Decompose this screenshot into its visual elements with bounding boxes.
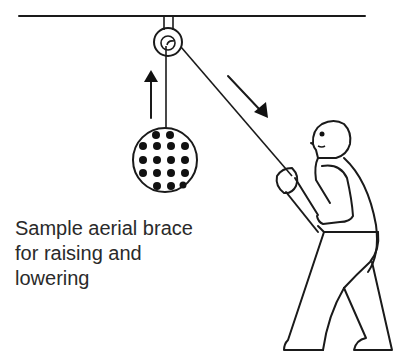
worker-figure: [277, 121, 392, 350]
aerial-brace-sphere: [133, 128, 197, 192]
pulley-block: [154, 16, 182, 56]
worker-hand: [277, 168, 298, 193]
up-arrow-icon: [144, 70, 158, 118]
diagram-caption: Sample aerial brace for raising and lowe…: [15, 216, 215, 291]
worker-head: [313, 121, 350, 158]
caption-line-1: Sample aerial brace: [15, 216, 215, 241]
worker-eye: [320, 132, 325, 137]
down-arrow-icon: [228, 76, 268, 118]
pulley-diagram: [0, 0, 409, 358]
caption-line-3: lowering: [15, 266, 215, 291]
caption-line-2: for raising and: [15, 241, 215, 266]
worker-mouth: [318, 146, 325, 147]
